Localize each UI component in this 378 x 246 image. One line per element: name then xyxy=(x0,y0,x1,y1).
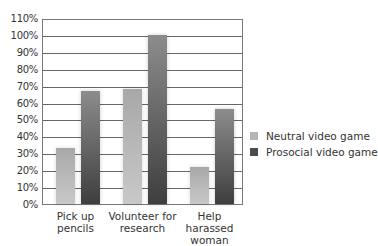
y-tick-label: 20% xyxy=(17,166,38,176)
legend-label: Neutral video game xyxy=(266,130,370,142)
y-tick-label: 0% xyxy=(23,200,38,210)
bar-prosocial xyxy=(215,109,234,204)
bar-prosocial xyxy=(81,91,100,204)
legend-item: Prosocial video game xyxy=(250,144,378,160)
gridline xyxy=(43,137,242,138)
bar-prosocial xyxy=(148,35,167,204)
gridline xyxy=(43,120,242,121)
y-tick-label: 110% xyxy=(11,14,38,24)
y-tick-label: 60% xyxy=(17,99,38,109)
gridline xyxy=(43,104,242,105)
y-tick-label: 30% xyxy=(17,149,38,159)
bar-neutral xyxy=(56,148,75,204)
y-tick-label: 40% xyxy=(17,132,38,142)
y-tick-label: 100% xyxy=(11,31,38,41)
y-tick-label: 90% xyxy=(17,48,38,58)
legend-item: Neutral video game xyxy=(250,128,378,144)
plot-area xyxy=(42,19,243,205)
y-tick-label: 80% xyxy=(17,65,38,75)
gridline xyxy=(43,53,242,54)
bar-neutral xyxy=(123,89,142,204)
bar-neutral xyxy=(190,167,209,204)
y-tick-label: 70% xyxy=(17,82,38,92)
gridline xyxy=(43,36,242,37)
y-tick-label: 10% xyxy=(17,183,38,193)
legend-swatch-icon xyxy=(250,148,258,156)
legend-swatch-icon xyxy=(250,132,258,140)
gridline xyxy=(43,70,242,71)
gridline xyxy=(43,87,242,88)
legend-label: Prosocial video game xyxy=(266,146,378,158)
x-tick-label: Volunteer forresearch xyxy=(107,210,179,234)
x-tick-label: Help harassedwoman xyxy=(174,210,246,246)
legend: Neutral video gameProsocial video game xyxy=(250,128,378,160)
y-tick-label: 50% xyxy=(17,115,38,125)
x-tick-label: Pick up pencils xyxy=(40,210,112,234)
